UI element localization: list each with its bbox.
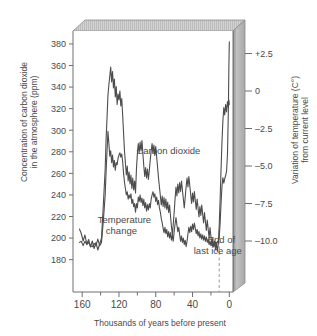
co2-temperature-chart: 180200220240260280300320340360380 +2.50–… — [0, 0, 317, 336]
end-of-ice-age-annotation-line2: last ice age — [194, 245, 242, 256]
slab-top-face — [73, 20, 245, 31]
left-tick-label: 200 — [51, 233, 66, 243]
right-axis-title: Variation of temperature (C°) from curre… — [290, 30, 310, 230]
carbon-dioxide-annotation: Carbon dioxide — [136, 145, 200, 156]
left-tick-label: 320 — [51, 104, 66, 114]
right-tick-label: –2.5 — [255, 124, 273, 134]
right-tick-label: –7.5 — [255, 199, 273, 209]
x-tick-label: 80 — [150, 299, 162, 310]
right-axis-title-line2: from current level — [300, 30, 310, 230]
right-tick-label: +2.5 — [255, 49, 273, 59]
right-tick-label: –5.0 — [255, 161, 273, 171]
left-axis-title-line1: Concentration of carbon dioxide — [19, 15, 29, 230]
x-axis-tick-labels: 16012080400 — [74, 299, 233, 310]
left-tick-label: 260 — [51, 169, 66, 179]
chart-canvas: 180200220240260280300320340360380 +2.50–… — [0, 0, 317, 336]
x-axis-title: Thousands of years before present — [60, 318, 260, 328]
temperature-change-annotation-line1: Temperature — [98, 214, 151, 225]
left-axis-tick-labels: 180200220240260280300320340360380 — [51, 39, 66, 265]
right-tick-label: –10.0 — [255, 236, 278, 246]
left-axis-title-line2: in the atmosphere (ppm) — [29, 15, 39, 230]
right-axis-title-line1: Variation of temperature (C°) — [290, 30, 300, 230]
temperature-change-annotation-line2: change — [106, 225, 137, 236]
left-tick-label: 240 — [51, 190, 66, 200]
left-tick-label: 300 — [51, 126, 66, 136]
left-axis-title: Concentration of carbon dioxide in the a… — [19, 15, 39, 230]
x-axis-ticks — [82, 292, 229, 297]
left-tick-label: 360 — [51, 61, 66, 71]
x-tick-label: 160 — [74, 299, 91, 310]
x-tick-label: 120 — [111, 299, 128, 310]
left-tick-label: 180 — [51, 255, 66, 265]
left-tick-label: 220 — [51, 212, 66, 222]
end-of-ice-age-annotation-line1: End of — [208, 234, 236, 245]
left-tick-label: 340 — [51, 82, 66, 92]
right-tick-label: 0 — [255, 86, 260, 96]
x-tick-label: 0 — [227, 299, 233, 310]
left-tick-label: 280 — [51, 147, 66, 157]
left-axis-ticks — [69, 44, 73, 260]
right-axis-tick-labels: +2.50–2.5–5.0–7.5–10.0 — [255, 49, 278, 247]
x-tick-label: 40 — [187, 299, 199, 310]
right-axis-ticks — [245, 54, 252, 242]
left-tick-label: 380 — [51, 39, 66, 49]
